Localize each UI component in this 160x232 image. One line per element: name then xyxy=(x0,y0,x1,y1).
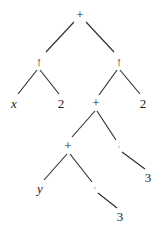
tree-edge xyxy=(18,70,37,94)
tree-edge xyxy=(99,70,117,95)
tree-edge xyxy=(98,193,117,208)
tree-edge xyxy=(44,154,67,180)
tree-edge xyxy=(72,111,95,137)
tree-node-var: y xyxy=(37,182,43,195)
tree-node-faint: ' xyxy=(94,184,96,197)
tree-node-num: 3 xyxy=(145,171,152,184)
tree-node-num: 2 xyxy=(58,97,65,110)
tree-edge xyxy=(40,70,59,94)
tree-node-op: + xyxy=(76,8,83,21)
tree-node-op: + xyxy=(92,96,99,109)
tree-edge xyxy=(122,152,145,169)
tree-node-faint: ' xyxy=(118,143,120,156)
tree-node-num: 3 xyxy=(117,210,124,223)
tree-node-var: x xyxy=(11,97,17,110)
tree-edge xyxy=(97,111,116,140)
tree-edge xyxy=(120,70,140,94)
tree-edge xyxy=(46,22,74,52)
tree-edges xyxy=(0,0,160,232)
tree-node-op: + xyxy=(64,139,71,152)
tree-node-num: 2 xyxy=(140,97,147,110)
tree-edge xyxy=(86,22,114,52)
tree-node-op: ↑ xyxy=(116,55,123,68)
tree-node-op: ↑ xyxy=(36,55,43,68)
tree-edge xyxy=(70,154,92,182)
